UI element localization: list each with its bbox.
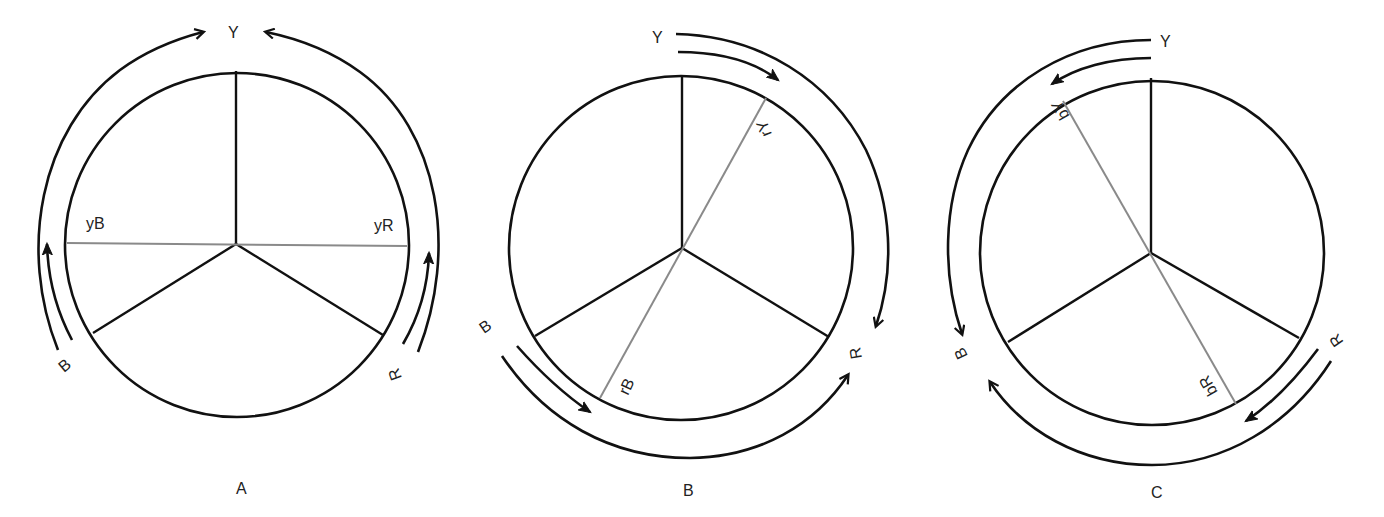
radius-blue [1008,253,1151,342]
label-r: R [846,346,865,360]
label-b: B [55,355,74,375]
arrow-r-to-b-outer [990,361,1331,465]
arrow-b-to-r-outer [502,356,848,458]
arrow-r-inner [1246,349,1318,421]
label-r: R [385,366,405,383]
chord-label-ry: rY [753,118,775,140]
panel-caption: A [236,480,247,497]
label-r: R [1326,331,1347,350]
panel-caption: B [683,482,694,499]
arrow-r-to-y-outer [266,32,439,352]
chord-label-br: bR [1196,373,1221,399]
chord-label-yr: yR [374,217,394,234]
chord-label-rb: rB [615,376,637,398]
label-y: Y [228,24,239,41]
radius-blue [535,248,682,336]
label-y: Y [1160,33,1171,50]
arrow-b-inner [517,346,590,412]
arrow-y-inner [1052,58,1151,84]
label-b: B [951,345,971,362]
mixing-chord [1063,101,1236,404]
panel-c: Y bY bR B R C [948,33,1346,501]
color-wheel-figure: Y yB yR B R A Y rY rB B R B [0,0,1384,517]
panel-caption: C [1151,484,1163,501]
panel-b: Y rY rB B R B [476,29,888,499]
radius-blue [93,244,236,333]
radius-red [682,248,829,337]
label-b: B [476,316,494,336]
chord-label-yb: yB [86,215,105,232]
panel-a: Y yB yR B R A [39,24,439,497]
radius-red [236,244,383,335]
arrow-b-to-y-outer [39,32,203,350]
label-y: Y [652,29,663,46]
